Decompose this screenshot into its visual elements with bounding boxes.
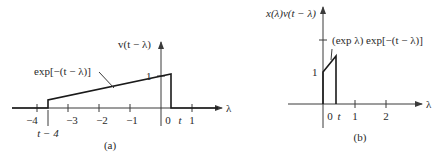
caption-a: (a) <box>104 139 117 152</box>
tick-label-t-b: t <box>337 110 341 122</box>
tick-label-neg4: −4 <box>26 114 38 126</box>
tick-label-neg1: −1 <box>126 114 138 126</box>
panel-a: v(t − λ) λ exp[−(t − λ)] 1 −4 −3 −2 −1 0… <box>12 38 232 152</box>
tick-label-neg2: −2 <box>96 114 108 126</box>
curve-label-a: exp[−(t − λ)] <box>34 65 91 78</box>
x-axis-label-a: λ <box>226 102 232 114</box>
tick-label-0-a: 0 <box>165 114 171 126</box>
x-axis-label-b: λ <box>426 98 432 110</box>
tick-label-1-b: 1 <box>352 110 358 122</box>
pointer-a <box>99 72 114 88</box>
tick-label-t-a: t <box>178 114 182 126</box>
panel-b: x(λ)v(t − λ) λ (exp λ) exp[−(t − λ)] 1 0… <box>265 7 432 144</box>
caption-b: (b) <box>354 131 367 144</box>
figure: v(t − λ) λ exp[−(t − λ)] 1 −4 −3 −2 −1 0… <box>0 0 446 158</box>
signal-a <box>12 74 218 108</box>
tick-label-neg3: −3 <box>66 114 78 126</box>
tick-label-1-a: 1 <box>189 114 195 126</box>
level-label-a: 1 <box>146 70 152 82</box>
shift-label-a: t − 4 <box>37 127 59 139</box>
tick-label-2-b: 2 <box>383 110 389 122</box>
curve-label-b: (exp λ) exp[−(t − λ)] <box>332 34 423 47</box>
y-axis-label-a: v(t − λ) <box>118 38 151 51</box>
tick-label-0-b: 0 <box>327 110 333 122</box>
signal-b <box>323 56 336 104</box>
y-axis-label-b: x(λ)v(t − λ) <box>265 7 316 20</box>
level-label-b: 1 <box>312 66 318 78</box>
pointer-b <box>331 49 332 60</box>
